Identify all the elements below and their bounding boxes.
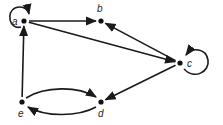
node-d bbox=[98, 99, 103, 104]
node-label-e: e bbox=[18, 108, 24, 119]
node-b bbox=[98, 18, 103, 23]
directed-graph: abcde bbox=[0, 0, 223, 125]
edge-c-to-b bbox=[105, 23, 175, 60]
node-e bbox=[19, 99, 24, 104]
node-label-b: b bbox=[97, 3, 103, 14]
node-a bbox=[21, 18, 26, 23]
node-label-a: a bbox=[12, 16, 18, 27]
edge-d-to-e bbox=[28, 107, 96, 115]
node-c bbox=[177, 60, 182, 65]
node-label-c: c bbox=[187, 58, 192, 69]
node-label-d: d bbox=[98, 108, 104, 119]
edge-a-to-c bbox=[29, 22, 175, 61]
edge-e-to-a bbox=[22, 26, 24, 97]
edge-c-to-d bbox=[105, 65, 175, 100]
edge-e-to-d bbox=[26, 89, 96, 98]
